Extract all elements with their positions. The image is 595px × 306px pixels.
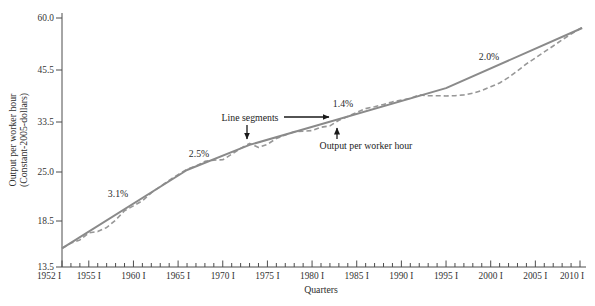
x-tick-label: 1995 I <box>434 271 458 281</box>
x-tick-label: 2005 I <box>523 271 547 281</box>
x-tick-label: 1980 I <box>300 271 324 281</box>
trend-segments-line <box>62 28 582 248</box>
data-series <box>62 27 582 248</box>
axes: 13.518.525.033.545.560.01952 I1955 I1960… <box>37 13 586 281</box>
growth-rate-label: 2.5% <box>189 148 209 159</box>
y-tick-label: 25.0 <box>38 167 55 177</box>
productivity-line-chart: 13.518.525.033.545.560.01952 I1955 I1960… <box>0 0 595 306</box>
y-axis-title-line1: Output per worker hour <box>7 93 18 187</box>
x-tick-label: 1975 I <box>255 271 279 281</box>
x-tick-label: 1990 I <box>389 271 413 281</box>
callout-label: Output per worker hour <box>320 140 414 151</box>
growth-rate-label: 1.4% <box>333 98 353 109</box>
y-axis-title-line2: (Constant-2005-dollars) <box>18 93 30 187</box>
annotations: 3.1%2.5%1.4%2.0%Line segmentsOutput per … <box>108 51 499 199</box>
x-tick-label: 1970 I <box>211 271 235 281</box>
x-tick-label: 2000 I <box>479 271 503 281</box>
x-tick-label: 1960 I <box>121 271 145 281</box>
x-tick-label: 2010 I <box>560 271 584 281</box>
y-tick-label: 60.0 <box>38 13 55 23</box>
growth-rate-label: 2.0% <box>479 51 499 62</box>
x-tick-label: 1965 I <box>166 271 190 281</box>
actual-output-line <box>62 27 582 248</box>
chart-figure: 13.518.525.033.545.560.01952 I1955 I1960… <box>0 0 595 306</box>
callout-label: Line segments <box>222 112 279 123</box>
y-tick-label: 45.5 <box>38 65 55 75</box>
y-tick-label: 18.5 <box>38 216 55 226</box>
x-axis-title: Quarters <box>304 284 338 295</box>
x-tick-label: 1955 I <box>77 271 101 281</box>
x-tick-label: 1985 I <box>345 271 369 281</box>
x-tick-label: 1952 I <box>37 271 61 281</box>
y-tick-label: 33.5 <box>38 117 55 127</box>
growth-rate-label: 3.1% <box>108 188 128 199</box>
